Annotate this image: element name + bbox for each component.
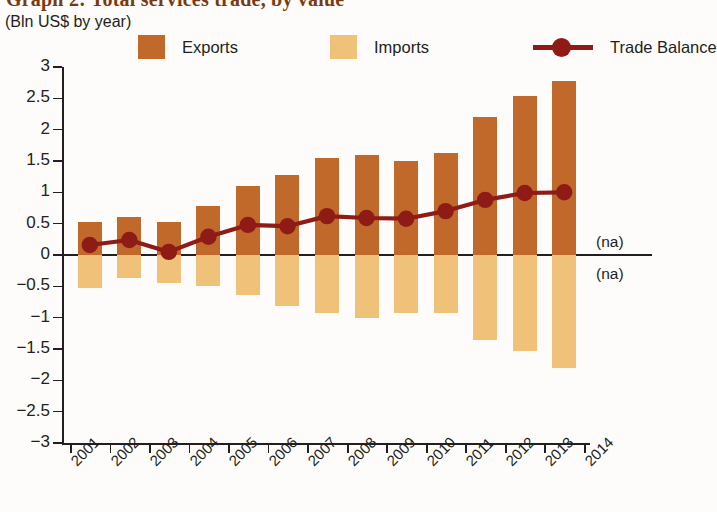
legend-item-trade-balance[interactable]: Trade Balance [533,34,717,60]
legend-item-exports[interactable]: Exports [138,34,238,60]
trade-balance-marker [517,185,533,201]
trade-balance-marker [161,244,177,260]
legend-swatch-icon [330,35,357,59]
y-axis-tick [53,286,62,288]
y-axis-label: 0.5 [0,213,50,233]
y-axis-label: −2.5 [0,401,50,421]
legend-line-marker-icon [533,35,593,59]
trade-balance-marker [477,192,493,208]
y-axis-tick [53,223,62,225]
trade-balance-marker [279,218,295,234]
na-label-below: (na) [596,265,624,283]
trade-balance-marker [121,232,137,248]
y-axis-label: −1.5 [0,338,50,358]
trade-balance-marker [240,217,256,233]
trade-balance-marker [556,184,572,200]
legend-label: Imports [374,38,429,57]
y-axis-label: −0.5 [0,275,50,295]
trade-balance-marker [82,237,98,253]
y-axis-tick [53,348,62,350]
trade-balance-line-layer [62,67,590,443]
trade-balance-marker [200,229,216,245]
y-axis-tick [53,442,62,444]
y-axis-tick [53,66,62,68]
trade-balance-marker [398,211,414,227]
y-axis-label: 2 [0,119,50,139]
y-axis-label: −3 [0,432,50,452]
y-axis-label: −2 [0,369,50,389]
legend-label: Exports [182,38,238,57]
y-axis-label: 3 [0,56,50,76]
y-axis-tick [53,380,62,382]
chart-title: Graph 2: Total services trade, by value [6,0,344,11]
y-axis-label: 1 [0,181,50,201]
y-axis-label: 0 [0,244,50,264]
y-axis-tick [53,129,62,131]
legend-item-imports[interactable]: Imports [330,34,429,60]
trade-balance-marker [319,208,335,224]
legend-label: Trade Balance [610,38,717,57]
y-axis-label: 1.5 [0,150,50,170]
legend-swatch-icon [138,35,165,59]
plot-area: 32.521.510.50−0.5−1−1.5−2−2.5−3200120022… [62,67,590,443]
y-axis-tick [53,192,62,194]
y-axis-tick [53,411,62,413]
chart-subtitle: (Bln US$ by year) [5,13,131,31]
trade-balance-marker [437,203,453,219]
y-axis-tick [53,317,62,319]
y-axis-label: −1 [0,307,50,327]
y-axis-tick [53,98,62,100]
y-axis-tick [53,160,62,162]
y-axis-label: 2.5 [0,87,50,107]
trade-balance-marker [358,210,374,226]
chart-legend: ExportsImportsTrade Balance [138,34,643,60]
y-axis-tick [53,254,62,256]
na-label-above: (na) [596,233,624,251]
